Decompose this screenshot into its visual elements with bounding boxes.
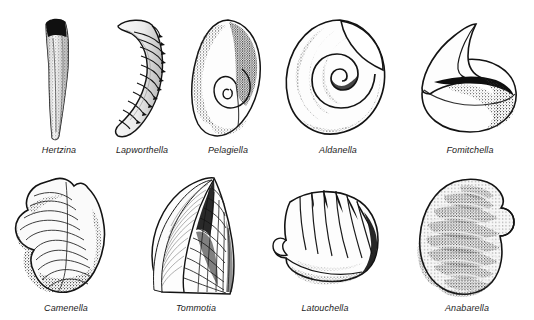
hertzina-stipple — [46, 20, 68, 140]
tommotia-illustration — [136, 174, 256, 302]
specimen-tommotia: Tommotia — [136, 168, 256, 314]
caption-lapworthella: Lapworthella — [116, 144, 168, 156]
fomitchella-illustration — [410, 12, 530, 144]
specimen-latouchella: Latouchella — [260, 168, 390, 314]
specimen-aldanella: Aldanella — [278, 8, 398, 156]
caption-hertzina: Hertzina — [42, 144, 76, 156]
specimen-hertzina: Hertzina — [16, 8, 102, 156]
specimen-pelagiella: Pelagiella — [182, 8, 274, 156]
latouchella-illustration — [260, 174, 390, 302]
specimen-lapworthella: Lapworthella — [96, 8, 188, 156]
caption-aldanella: Aldanella — [319, 144, 357, 156]
hertzina-apex-cap — [46, 19, 67, 37]
anabarella-illustration — [400, 174, 534, 302]
specimen-anabarella: Anabarella — [400, 168, 534, 314]
pelagiella-illustration — [182, 12, 274, 144]
specimen-fomitchella: Fomitchella — [410, 8, 530, 156]
caption-anabarella: Anabarella — [445, 302, 489, 314]
lapworthella-body — [116, 20, 163, 136]
caption-pelagiella: Pelagiella — [208, 144, 248, 156]
hertzina-illustration — [16, 12, 102, 144]
caption-tommotia: Tommotia — [176, 302, 216, 314]
lapworthella-illustration — [96, 12, 188, 144]
fossil-plate: Hertzina — [0, 0, 534, 320]
specimen-camenella: Camenella — [4, 168, 128, 314]
aldanella-illustration — [278, 12, 398, 144]
caption-fomitchella: Fomitchella — [446, 144, 493, 156]
caption-latouchella: Latouchella — [301, 302, 348, 314]
caption-camenella: Camenella — [44, 302, 88, 314]
camenella-illustration — [4, 174, 128, 302]
